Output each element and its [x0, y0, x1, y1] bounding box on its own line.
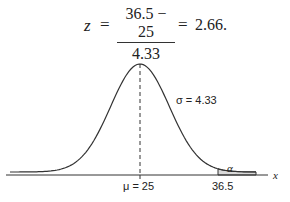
critical-value-label: 36.5 [212, 180, 233, 192]
bell-curve [10, 64, 256, 172]
normal-curve-diagram: x μ = 25 36.5 σ = 4.33 α [0, 0, 290, 202]
sigma-label: σ = 4.33 [176, 94, 217, 106]
mean-label: μ = 25 [123, 180, 154, 192]
alpha-label: α [227, 162, 233, 174]
x-axis-label: x [272, 169, 278, 181]
